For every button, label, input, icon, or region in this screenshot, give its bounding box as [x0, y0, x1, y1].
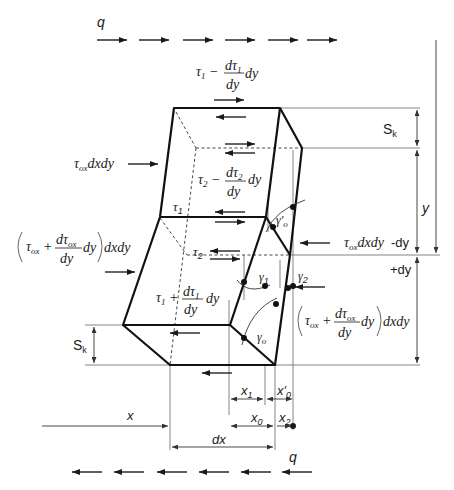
- svg-text:dy: dy: [361, 314, 375, 329]
- svg-text:dy: dy: [206, 291, 220, 306]
- plus-dy-label: +dy: [390, 262, 412, 277]
- svg-text:τ2 −: τ2 −: [198, 172, 220, 189]
- tau2-minus-label: τ2 − dτ2 dy dy: [198, 165, 262, 199]
- sk-label-bottom: Sk: [73, 337, 87, 355]
- svg-text:dy: dy: [226, 77, 240, 92]
- tau-ox-plus-left-label: τox + dτox dy dy dxdy: [18, 232, 131, 266]
- element-outline: [123, 108, 302, 365]
- svg-text:τ1 +: τ1 +: [156, 290, 178, 307]
- svg-text:dτox: dτox: [335, 306, 356, 323]
- q-label-top: q: [97, 14, 105, 30]
- svg-text:dy: dy: [184, 302, 198, 317]
- shear-element-diagram: q q τ1 − dτ1 dy dy τ2 − dτ2 dy dy τ1 + d…: [0, 0, 454, 490]
- tau1-minus-label: τ1 − dτ1 dy dy: [196, 58, 259, 92]
- svg-text:dτ2: dτ2: [226, 165, 243, 182]
- gamma0-prime-label: γ'o: [276, 213, 288, 229]
- x0-label: x0: [250, 410, 263, 427]
- svg-text:dy: dy: [245, 66, 259, 81]
- svg-text:τoxdxdy: τoxdxdy: [344, 235, 385, 252]
- sk-label-top: Sk: [383, 121, 397, 139]
- tau1-label: τ1: [173, 199, 183, 216]
- gamma0-label: γo: [257, 330, 267, 346]
- x0-prime-label: x'0: [276, 383, 291, 400]
- tau-ox-left-label: τoxdxdy: [74, 156, 115, 173]
- x1-label: x1: [240, 383, 253, 400]
- svg-text:-dy: -dy: [391, 235, 410, 250]
- svg-text:τox +: τox +: [26, 239, 52, 256]
- x2-label: x2: [278, 410, 291, 427]
- q-label-bottom: q: [289, 449, 297, 465]
- gamma2-label: γ2: [298, 269, 308, 285]
- tau2-label: τ2: [193, 244, 203, 261]
- svg-text:τ1 −: τ1 −: [196, 64, 218, 81]
- svg-text:dxdy: dxdy: [383, 314, 410, 329]
- svg-text:dy: dy: [227, 184, 241, 199]
- svg-text:dy: dy: [248, 172, 262, 187]
- tau-ox-right-label: τoxdxdy -dy: [344, 235, 410, 252]
- svg-text:dτ1: dτ1: [225, 58, 242, 75]
- svg-text:dy: dy: [338, 325, 352, 340]
- point-marker: [290, 423, 296, 429]
- shear-arrows: [105, 100, 330, 373]
- svg-text:τox +: τox +: [305, 313, 331, 330]
- svg-text:dτ1: dτ1: [183, 284, 200, 301]
- svg-text:dy: dy: [83, 240, 97, 255]
- y-label: y: [421, 200, 430, 216]
- dx-label: dx: [212, 432, 226, 447]
- gamma1-label: γ1: [259, 270, 269, 286]
- x-label: x: [126, 408, 134, 423]
- tau1-plus-label: τ1 + dτ1 dy dy: [156, 284, 220, 317]
- tau-ox-plus-right-label: τox + dτox dy dy dxdy: [298, 306, 410, 340]
- svg-text:dy: dy: [60, 251, 74, 266]
- svg-text:dτox: dτox: [56, 232, 77, 249]
- svg-text:dxdy: dxdy: [104, 240, 131, 255]
